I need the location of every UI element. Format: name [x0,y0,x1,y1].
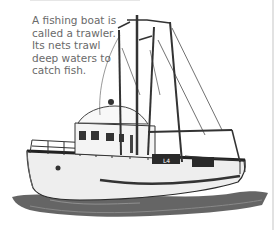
svg-text:L4: L4 [163,157,170,164]
wheelhouse [75,99,155,158]
trawler-illustration: L4 [0,0,277,230]
masts [100,15,240,162]
